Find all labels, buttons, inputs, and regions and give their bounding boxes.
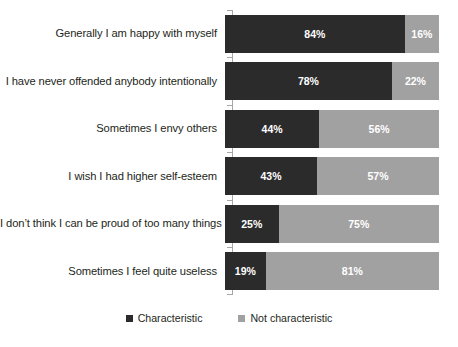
- stacked-bar-chart: Generally I am happy with myself 84% 16%…: [0, 0, 458, 347]
- bar-segment-not-characteristic: 56%: [319, 110, 439, 148]
- category-label: Sometimes I envy others: [0, 122, 225, 135]
- category-label: Generally I am happy with myself: [0, 27, 225, 40]
- chart-legend: Characteristic Not characteristic: [0, 312, 458, 324]
- bar-segment-characteristic: 84%: [225, 15, 405, 53]
- legend-item-characteristic[interactable]: Characteristic: [126, 312, 203, 324]
- bar-row: I don’t think I can be proud of too many…: [0, 200, 458, 248]
- bar-segment-characteristic: 25%: [225, 205, 279, 243]
- bar-row: Sometimes I envy others 44% 56%: [0, 105, 458, 153]
- bar-segment-not-characteristic: 75%: [279, 205, 440, 243]
- bar-track: 44% 56%: [225, 110, 439, 148]
- bar-track: 84% 16%: [225, 15, 439, 53]
- bar-segment-characteristic: 44%: [225, 110, 319, 148]
- bar-track: 78% 22%: [225, 62, 439, 100]
- bar-track: 43% 57%: [225, 157, 439, 195]
- plot-area: Generally I am happy with myself 84% 16%…: [0, 10, 458, 295]
- legend-swatch-icon: [238, 315, 245, 322]
- bar-segment-characteristic: 43%: [225, 157, 317, 195]
- bar-segment-characteristic: 19%: [225, 252, 266, 290]
- bar-row: I have never offended anybody intentiona…: [0, 58, 458, 106]
- category-label: I wish I had higher self-esteem: [0, 170, 225, 183]
- bar-row: Sometimes I feel quite useless 19% 81%: [0, 248, 458, 296]
- legend-label: Characteristic: [138, 312, 203, 324]
- bar-rows: Generally I am happy with myself 84% 16%…: [0, 10, 458, 295]
- bar-row: I wish I had higher self-esteem 43% 57%: [0, 153, 458, 201]
- bar-segment-not-characteristic: 16%: [405, 15, 439, 53]
- category-label: I have never offended anybody intentiona…: [0, 75, 225, 88]
- category-label: I don’t think I can be proud of too many…: [0, 217, 225, 230]
- category-label: Sometimes I feel quite useless: [0, 265, 225, 278]
- legend-label: Not characteristic: [250, 312, 332, 324]
- bar-segment-characteristic: 78%: [225, 62, 392, 100]
- bar-track: 25% 75%: [225, 205, 439, 243]
- bar-segment-not-characteristic: 57%: [317, 157, 439, 195]
- bar-track: 19% 81%: [225, 252, 439, 290]
- legend-swatch-icon: [126, 315, 133, 322]
- bar-segment-not-characteristic: 81%: [266, 252, 439, 290]
- legend-item-not-characteristic[interactable]: Not characteristic: [238, 312, 332, 324]
- bar-segment-not-characteristic: 22%: [392, 62, 439, 100]
- bar-row: Generally I am happy with myself 84% 16%: [0, 10, 458, 58]
